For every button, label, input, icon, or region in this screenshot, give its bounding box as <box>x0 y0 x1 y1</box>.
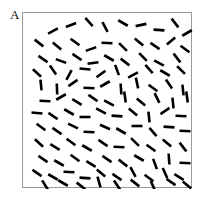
line-segment <box>50 144 59 150</box>
line-segment <box>149 128 156 136</box>
line-segment <box>139 53 147 61</box>
line-segment <box>71 39 80 45</box>
line-segment <box>145 175 154 181</box>
line-segment <box>38 56 47 62</box>
line-segment <box>136 24 147 26</box>
line-segment <box>48 113 57 119</box>
line-segment <box>182 85 183 96</box>
line-segment <box>38 156 47 162</box>
line-segment <box>115 65 119 75</box>
line-segment <box>124 92 126 103</box>
line-segment <box>172 19 179 28</box>
line-segment <box>50 65 56 74</box>
line-segment <box>172 98 173 109</box>
line-segment <box>116 128 126 134</box>
line-segment <box>102 156 111 162</box>
line-segment <box>149 85 158 91</box>
line-segment <box>128 72 138 77</box>
line-segment-stimulus-field <box>23 13 193 189</box>
line-segment <box>72 54 81 60</box>
line-segment <box>53 42 61 49</box>
line-segment <box>183 181 191 188</box>
line-segment <box>82 145 92 151</box>
line-segment <box>32 170 41 176</box>
panel-label-a: A <box>10 8 19 21</box>
line-segment <box>42 180 48 189</box>
line-segment <box>147 145 156 151</box>
line-segment <box>104 100 114 105</box>
line-segment <box>180 143 187 152</box>
line-segment <box>112 116 123 117</box>
line-segment <box>135 38 143 45</box>
line-segment <box>77 183 86 189</box>
line-segment <box>130 167 135 177</box>
line-segment <box>35 139 43 146</box>
line-segment <box>145 65 152 73</box>
line-segment <box>97 71 106 77</box>
line-segment <box>160 108 169 114</box>
line-segment <box>186 92 188 103</box>
line-segment <box>33 69 41 76</box>
line-segment <box>88 62 99 64</box>
line-segment <box>102 22 107 32</box>
line-segment <box>86 47 96 51</box>
line-segment <box>169 154 170 165</box>
line-segment <box>104 55 114 61</box>
line-segment <box>80 68 91 69</box>
line-segment <box>97 177 100 188</box>
line-segment <box>153 159 157 169</box>
line-segment <box>40 80 41 91</box>
line-segment <box>151 181 155 189</box>
line-segment <box>148 112 149 123</box>
line-segment <box>121 59 130 66</box>
line-segment <box>68 124 78 129</box>
line-segment <box>134 155 144 161</box>
stimulus-field-border <box>22 12 192 188</box>
line-segment <box>163 168 167 178</box>
line-segment <box>163 139 171 146</box>
line-segment <box>85 18 92 26</box>
line-segment <box>174 54 181 63</box>
line-segment <box>155 93 160 103</box>
line-segment <box>32 112 43 113</box>
line-segment <box>98 140 107 146</box>
line-segment <box>182 30 192 36</box>
line-segment <box>68 80 77 86</box>
line-segment <box>71 155 80 161</box>
line-segment <box>154 60 164 65</box>
line-segment <box>66 23 76 27</box>
line-segment <box>80 178 91 179</box>
line-segment <box>48 28 58 33</box>
line-segment <box>166 79 172 88</box>
line-segment <box>166 179 175 185</box>
line-segment <box>160 70 170 76</box>
line-segment <box>56 59 66 63</box>
figure-root: A <box>0 0 201 204</box>
line-segment <box>58 180 68 186</box>
line-segment <box>112 174 121 180</box>
line-segment <box>96 108 106 113</box>
line-segment <box>100 81 110 87</box>
line-segment <box>37 124 46 130</box>
line-segment <box>64 109 74 115</box>
line-segment <box>66 70 71 80</box>
line-segment <box>114 180 120 189</box>
line-segment <box>121 84 122 95</box>
line-segment <box>86 161 95 167</box>
line-segment <box>167 37 175 44</box>
line-segment <box>118 20 128 26</box>
line-segment <box>100 125 110 129</box>
line-segment <box>88 95 97 101</box>
line-segment <box>164 127 175 128</box>
line-segment <box>174 174 183 180</box>
line-segment <box>137 98 145 105</box>
line-segment <box>52 128 61 134</box>
line-segment <box>131 138 139 146</box>
line-segment <box>72 99 81 105</box>
line-segment <box>119 43 127 51</box>
line-segment <box>35 40 44 47</box>
line-segment <box>181 46 190 52</box>
line-segment <box>177 66 185 74</box>
line-segment <box>119 160 128 167</box>
line-segment <box>154 30 165 31</box>
